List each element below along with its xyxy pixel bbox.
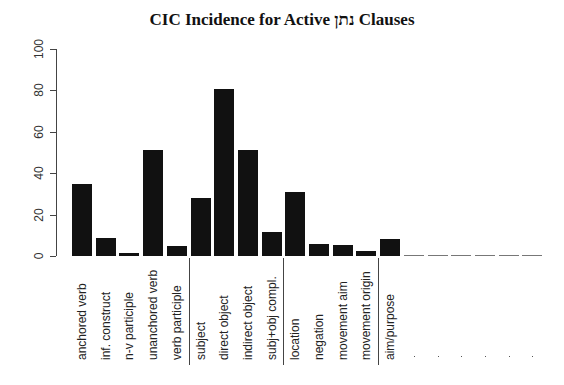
bar <box>475 255 495 256</box>
y-tick <box>50 90 56 91</box>
bar <box>167 246 187 256</box>
x-label-dot <box>485 356 486 357</box>
bar <box>191 198 211 256</box>
x-label-dot <box>414 356 415 357</box>
bar <box>143 150 163 256</box>
group-separator <box>378 258 379 365</box>
bar <box>356 251 376 256</box>
bar <box>285 192 305 256</box>
bar <box>499 255 519 256</box>
x-tick-label: indirect object <box>241 286 255 360</box>
x-label-dot <box>438 356 439 357</box>
bar <box>238 150 258 256</box>
x-tick-label: anchored verb <box>75 283 89 360</box>
x-tick-label: negation <box>312 314 326 360</box>
x-tick-label: direct object <box>217 295 231 360</box>
bar <box>262 232 282 256</box>
x-tick-label: movement aim <box>336 281 350 360</box>
y-tick <box>50 49 56 50</box>
y-tick-label: 100 <box>32 38 46 60</box>
bar <box>214 89 234 256</box>
x-tick-label: unanchored verb <box>146 270 160 360</box>
group-separator <box>189 258 190 365</box>
x-tick-label: subj+obj compl. <box>265 276 279 360</box>
y-tick-label: 60 <box>32 121 46 143</box>
group-separator <box>283 258 284 365</box>
x-tick-label: movement origin <box>359 271 373 360</box>
x-label-dot <box>509 356 510 357</box>
y-tick <box>50 215 56 216</box>
bar <box>404 255 424 256</box>
y-tick <box>50 173 56 174</box>
x-tick-label: n-v participle <box>122 292 136 360</box>
x-tick-label: subject <box>194 322 208 360</box>
bar <box>96 238 116 256</box>
x-tick-label: verb participle <box>170 285 184 360</box>
y-tick-label: 20 <box>32 204 46 226</box>
bar <box>522 255 542 256</box>
x-tick-label: aim/purpose <box>383 294 397 360</box>
chart-title: CIC Incidence for Active נתן Clauses <box>0 10 564 30</box>
x-label-dot <box>461 356 462 357</box>
x-tick-label: location <box>288 319 302 360</box>
y-tick <box>50 132 56 133</box>
bar <box>119 253 139 256</box>
y-tick-label: 80 <box>32 79 46 101</box>
y-tick-label: 40 <box>32 162 46 184</box>
x-label-dot <box>532 356 533 357</box>
y-tick-label: 0 <box>32 245 46 267</box>
bar <box>309 244 329 256</box>
x-tick-label: inf. construct <box>99 292 113 360</box>
bar <box>380 239 400 256</box>
y-tick <box>50 256 56 257</box>
bar <box>333 245 353 256</box>
bar <box>72 184 92 256</box>
y-axis <box>56 49 57 256</box>
bar <box>428 255 448 256</box>
bar <box>451 255 471 256</box>
